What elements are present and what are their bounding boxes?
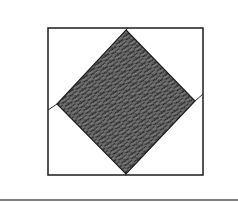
quilt-block-diagram — [0, 0, 238, 202]
